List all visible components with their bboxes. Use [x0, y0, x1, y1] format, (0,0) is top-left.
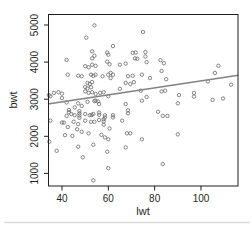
data-point — [102, 120, 105, 123]
data-point — [97, 113, 100, 116]
data-point — [159, 59, 162, 62]
data-point — [103, 136, 106, 139]
data-point — [94, 64, 97, 67]
x-tick-label: 100 — [193, 193, 210, 204]
data-point — [101, 75, 104, 78]
data-point — [63, 134, 66, 137]
x-tick-label: 40 — [56, 193, 68, 204]
y-axis-ticks: 10002000300040005000 — [29, 13, 49, 184]
data-point — [148, 76, 151, 79]
data-point — [73, 106, 76, 109]
data-point — [65, 58, 68, 61]
data-point — [106, 150, 109, 153]
data-point — [107, 138, 110, 141]
y-axis-label: bwt — [7, 91, 19, 108]
y-tick-label: 5000 — [29, 13, 40, 36]
data-points-layer — [47, 24, 233, 182]
data-point — [124, 62, 127, 65]
data-point — [77, 102, 80, 105]
data-point — [89, 120, 92, 123]
x-axis-ticks: 406080100 — [56, 186, 209, 204]
data-point — [107, 73, 110, 76]
data-point — [80, 104, 83, 107]
data-point — [145, 95, 148, 98]
data-point — [77, 122, 80, 125]
data-point — [109, 76, 112, 79]
data-point — [87, 132, 90, 135]
data-point — [77, 145, 80, 148]
data-point — [55, 149, 58, 152]
data-point — [107, 167, 110, 170]
data-point — [132, 80, 135, 83]
data-point — [75, 128, 78, 131]
data-point — [92, 143, 95, 146]
data-point — [90, 91, 93, 94]
data-point — [80, 75, 83, 78]
data-point — [144, 55, 147, 58]
data-point — [100, 133, 103, 136]
r-plot-window: 406080100 10002000300040005000 lwt bwt — [0, 0, 252, 226]
data-point — [65, 114, 68, 117]
data-point — [72, 120, 75, 123]
data-point — [140, 138, 143, 141]
data-point — [99, 91, 102, 94]
data-point — [141, 30, 144, 33]
data-point — [145, 60, 148, 63]
data-point — [66, 73, 69, 76]
data-point — [125, 132, 128, 135]
data-point — [102, 123, 105, 126]
data-point — [126, 75, 129, 78]
data-point — [156, 110, 159, 113]
data-point — [111, 44, 114, 47]
data-point — [124, 81, 127, 84]
data-point — [136, 57, 139, 60]
data-point — [87, 66, 90, 69]
data-point — [213, 71, 216, 74]
data-point — [52, 91, 55, 94]
data-point — [60, 92, 63, 95]
data-point — [93, 24, 96, 27]
data-point — [49, 119, 52, 122]
data-point — [221, 97, 224, 100]
data-point — [66, 125, 69, 128]
x-axis-label: lwt — [136, 205, 149, 217]
data-point — [118, 63, 121, 66]
data-point — [102, 91, 105, 94]
data-point — [84, 112, 87, 115]
data-point — [177, 93, 180, 96]
data-point — [90, 57, 93, 60]
data-point — [160, 69, 163, 72]
y-tick-label: 1000 — [29, 162, 40, 185]
data-point — [211, 98, 214, 101]
data-point — [92, 179, 95, 182]
data-point — [111, 73, 114, 76]
data-point — [90, 50, 93, 53]
data-point — [124, 146, 127, 149]
data-point — [160, 90, 163, 93]
data-point — [144, 50, 147, 53]
data-point — [97, 118, 100, 121]
data-point — [163, 89, 166, 92]
data-point — [192, 95, 195, 98]
data-point — [161, 114, 164, 117]
data-point — [129, 132, 132, 135]
data-point — [129, 82, 132, 85]
data-point — [78, 116, 81, 119]
data-point — [121, 119, 124, 122]
data-point — [108, 63, 111, 66]
data-point — [93, 120, 96, 123]
data-point — [57, 91, 60, 94]
scatter-plot: 406080100 10002000300040005000 lwt bwt — [0, 0, 252, 226]
data-point — [192, 91, 195, 94]
data-point — [84, 119, 87, 122]
y-tick-label: 4000 — [29, 51, 40, 74]
data-point — [60, 96, 63, 99]
data-point — [77, 74, 80, 77]
data-point — [84, 65, 87, 68]
y-tick-label: 2000 — [29, 125, 40, 148]
data-point — [166, 114, 169, 117]
data-point — [80, 130, 83, 133]
data-point — [217, 64, 220, 67]
data-point — [111, 116, 114, 119]
data-point — [229, 83, 232, 86]
